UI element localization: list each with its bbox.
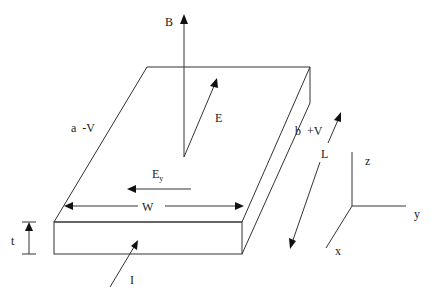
label-ey-sub: y (159, 174, 163, 183)
label-i: I (130, 273, 134, 287)
label-side-b: b +V (295, 124, 323, 138)
width-dimension-arrow (64, 202, 244, 210)
label-t: t (11, 234, 15, 248)
electric-field-arrow (184, 78, 218, 157)
magnetic-field-arrow (180, 14, 188, 157)
conducting-slab (54, 67, 310, 254)
label-w: W (142, 200, 154, 214)
label-ey: Ey (152, 167, 163, 183)
x-axis (326, 206, 352, 248)
label-l: L (321, 147, 328, 161)
label-axis-y: y (414, 207, 420, 221)
label-axis-x: x (335, 244, 341, 258)
thickness-dimension-arrow (22, 222, 36, 254)
slab-side-face (242, 67, 310, 254)
hall-field-arrow (127, 185, 191, 193)
slab-front-face (54, 222, 242, 254)
label-b: B (165, 15, 173, 29)
hall-effect-diagram: B E Ey W a -V b +V (0, 0, 432, 298)
slab-top-face (54, 67, 310, 222)
label-side-a: a -V (71, 121, 95, 135)
label-e: E (215, 111, 222, 125)
label-ey-main: E (152, 167, 159, 181)
diagram-canvas: B E Ey W a -V b +V (0, 0, 432, 298)
label-axis-z: z (365, 154, 370, 168)
